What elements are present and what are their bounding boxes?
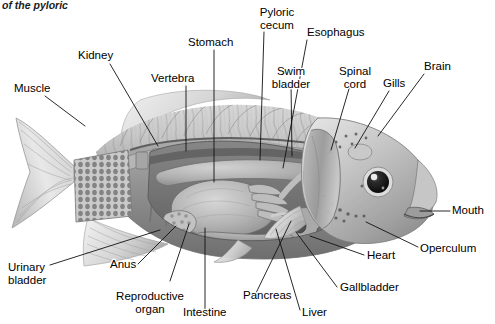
svg-text:Urinary: Urinary [8,261,45,273]
svg-text:bladder: bladder [8,274,47,286]
fish-illustration: of the pyloric Muscle Kidney Vertebra St… [0,0,495,324]
fish-anatomy-figure: of the pyloric Muscle Kidney Vertebra St… [0,0,495,324]
label-operculum: Operculum [420,242,476,254]
label-pyloric-cecum: Pyloric cecum [260,6,295,31]
label-gills: Gills [383,77,406,89]
label-mouth: Mouth [452,204,484,216]
leader-muscle [45,96,85,126]
label-reproductive-organ: Reproductive organ [116,290,184,315]
caption-fragment: of the pyloric [2,0,68,11]
label-spinal-cord: Spinal cord [339,65,371,90]
label-liver: Liver [302,306,327,318]
caudal-peduncle [70,146,136,226]
label-urinary-bladder: Urinary bladder [8,261,47,286]
label-swim-bladder: Swim bladder [272,65,311,90]
label-anus: Anus [110,258,136,270]
brain-organ [348,144,372,160]
label-intestine: Intestine [183,306,226,318]
label-brain: Brain [424,60,451,72]
label-pancreas: Pancreas [243,289,292,301]
label-vertebra: Vertebra [151,72,195,84]
label-stomach: Stomach [188,36,233,48]
svg-text:Spinal: Spinal [339,65,371,77]
eye [363,167,393,197]
label-muscle: Muscle [14,82,50,94]
caudal-fin [12,118,74,228]
label-gallbladder: Gallbladder [340,281,399,293]
svg-text:Swim: Swim [277,65,305,77]
svg-text:organ: organ [135,303,164,315]
svg-text:cecum: cecum [260,19,294,31]
svg-text:Reproductive: Reproductive [116,290,184,302]
label-kidney: Kidney [78,49,113,61]
svg-text:cord: cord [344,78,366,90]
svg-text:Pyloric: Pyloric [260,6,295,18]
svg-text:bladder: bladder [272,78,311,90]
label-heart: Heart [367,249,396,261]
label-esophagus: Esophagus [307,26,365,38]
